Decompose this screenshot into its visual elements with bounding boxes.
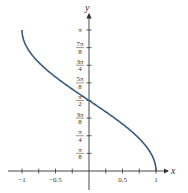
x-tick-label: 1 (154, 176, 158, 184)
arccos-chart: −1−0.50.51π8π43π8π25π83π47π8π x y (0, 0, 188, 193)
y-tick-label-den: 8 (78, 153, 82, 161)
y-tick-label-den: 8 (78, 118, 82, 126)
x-tick-label: −0.5 (49, 176, 62, 184)
y-axis-label: y (84, 2, 90, 13)
axes (8, 14, 168, 190)
x-axis-label: x (170, 165, 176, 176)
y-tick-label-den: 8 (78, 48, 82, 56)
x-tick-label: 0.5 (118, 176, 127, 184)
y-tick-label-den: 8 (78, 83, 82, 91)
y-tick-label-den: 4 (78, 65, 82, 73)
y-tick-label: π (78, 26, 82, 34)
y-tick-label-den: 4 (78, 136, 82, 144)
ticks: −1−0.50.51π8π43π8π25π83π47π8π (18, 26, 158, 184)
x-tick-label: −1 (18, 176, 26, 184)
y-tick-label-den: 2 (78, 100, 82, 108)
